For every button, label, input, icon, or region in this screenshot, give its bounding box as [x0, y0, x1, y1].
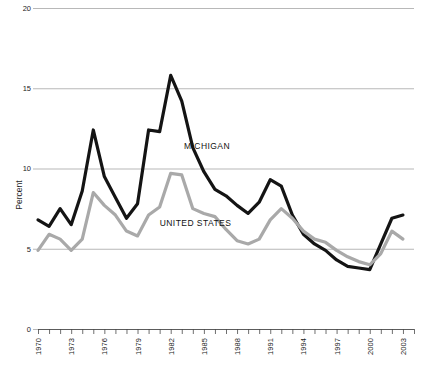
- x-axis-tick-label: 1979: [134, 338, 143, 355]
- x-axis-tick-label: 1976: [100, 338, 109, 355]
- x-axis-tick-labels: 1970197319761979198219851988199119941997…: [34, 338, 408, 355]
- unemployment-rate-line-chart: 05101520 Percent 19701973197619791982198…: [0, 0, 444, 383]
- y-axis-title: Percent: [14, 180, 24, 210]
- x-axis-tick-label: 2000: [366, 338, 375, 355]
- y-axis-title-group: Percent: [14, 180, 24, 210]
- x-axis-group: 1970197319761979198219851988199119941997…: [34, 329, 415, 355]
- y-axis-tick-label: 20: [23, 4, 31, 13]
- series-label-michigan: MICHIGAN: [184, 141, 230, 151]
- y-axis-tick-label: 5: [27, 245, 31, 254]
- y-axis-tick-labels: 05101520: [23, 4, 38, 334]
- y-axis-tick-label: 15: [23, 84, 31, 93]
- x-axis-tick-label: 1982: [167, 338, 176, 355]
- x-axis-tick-label: 2003: [399, 338, 408, 355]
- x-axis-tick-label: 1997: [333, 338, 342, 355]
- x-axis-tick-label: 1988: [233, 338, 242, 355]
- series-group: [38, 75, 403, 269]
- chart-canvas: 05101520 Percent 19701973197619791982198…: [0, 0, 444, 383]
- x-axis-tick-label: 1991: [266, 338, 275, 355]
- y-axis-tick-label: 0: [27, 325, 31, 334]
- series-line-michigan: [38, 75, 403, 269]
- x-axis-tick-label: 1970: [34, 338, 43, 355]
- y-axis-tick-label: 10: [23, 164, 31, 173]
- x-axis-tick-label: 1973: [67, 338, 76, 355]
- x-axis-tick-label: 1994: [299, 338, 308, 355]
- x-axis-tick-label: 1985: [200, 338, 209, 355]
- series-label-united-states: UNITED STATES: [160, 218, 232, 228]
